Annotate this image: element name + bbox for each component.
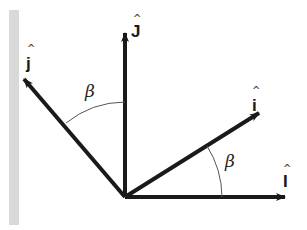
angle-arc-lower: [207, 146, 222, 197]
label-i: i: [252, 97, 257, 114]
angle-arc-upper: [66, 102, 125, 123]
wall: [9, 10, 19, 225]
angle-label-lower: β: [225, 153, 235, 170]
label-I: I: [283, 173, 288, 190]
angle-label-upper: β: [85, 83, 95, 100]
label-j: j: [26, 55, 31, 72]
i-hat: ^: [252, 86, 260, 96]
coordinate-rotation-diagram: ^ J ^ I ^ j ^ i β β: [0, 0, 307, 230]
vector-j-rotated: [24, 79, 125, 197]
j-hat: ^: [27, 44, 35, 54]
label-J: J: [131, 23, 140, 40]
diagram-canvas: [0, 0, 307, 230]
vector-i-rotated: [125, 113, 259, 197]
